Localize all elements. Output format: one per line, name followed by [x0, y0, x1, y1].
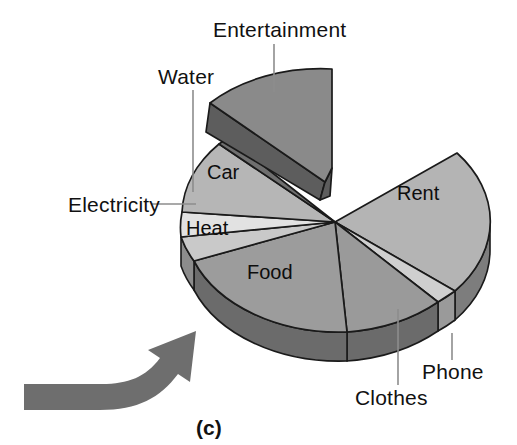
- label-phone: Phone: [422, 361, 484, 382]
- curved-arrow-icon: [24, 331, 196, 410]
- label-electricity: Electricity: [68, 194, 160, 215]
- label-car: Car: [207, 162, 239, 182]
- label-water: Water: [158, 66, 214, 87]
- figure-caption: (c): [196, 416, 222, 440]
- label-clothes: Clothes: [355, 387, 428, 408]
- label-entertainment: Entertainment: [213, 19, 346, 40]
- figure-canvas: Entertainment Water Electricity Car Heat…: [0, 0, 517, 445]
- label-heat: Heat: [186, 218, 228, 238]
- label-food: Food: [247, 262, 293, 282]
- label-rent: Rent: [397, 183, 439, 203]
